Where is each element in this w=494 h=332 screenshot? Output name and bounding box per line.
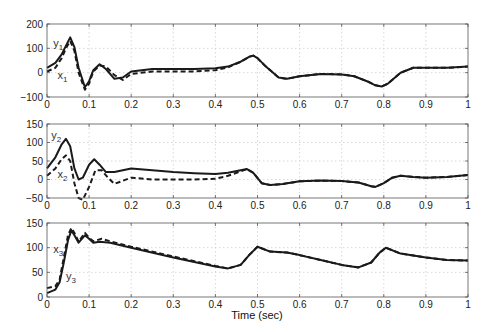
x-tick-label: 0.8 — [377, 299, 391, 310]
y-tick-label: 100 — [26, 137, 43, 148]
x-tick-label: 0.1 — [82, 200, 96, 211]
x-tick-label: 0.8 — [377, 200, 391, 211]
x-tick-label: 0.5 — [251, 200, 265, 211]
x-tick-label: 0 — [44, 299, 50, 310]
y-tick-label: 150 — [26, 119, 43, 130]
x-tick-label: 0.3 — [166, 99, 180, 110]
x-tick-label: 0.1 — [82, 299, 96, 310]
x-tick-label: 0.5 — [251, 99, 265, 110]
x-tick-label: 0 — [44, 99, 50, 110]
label-y1: y1 — [53, 37, 64, 52]
x-tick-label: 0.3 — [166, 299, 180, 310]
label-x1: x1 — [58, 69, 69, 84]
y-tick-label: 150 — [26, 218, 43, 229]
x-tick-label: 1 — [465, 99, 471, 110]
y-tick-label: 100 — [26, 43, 43, 54]
label-x3: x3 — [53, 243, 64, 258]
figure: 00.10.20.30.40.50.60.70.80.91−1000100200… — [0, 0, 494, 332]
x-tick-label: 0.7 — [335, 200, 349, 211]
label-y2: y2 — [51, 129, 62, 144]
x-tick-label: 0.4 — [208, 200, 222, 211]
x-tick-label: 0.2 — [124, 200, 138, 211]
y-tick-label: 50 — [32, 267, 44, 278]
plot-middle-y2-x2: 00.10.20.30.40.50.60.70.80.91−5005010015… — [26, 119, 471, 212]
x-tick-label: 0.6 — [293, 99, 307, 110]
x-tick-label: 0 — [44, 200, 50, 211]
label-y3: y3 — [66, 270, 77, 285]
plot-top-y1-x1: 00.10.20.30.40.50.60.70.80.91−1000100200… — [20, 19, 471, 111]
plot-bottom-y3-x3: 00.10.20.30.40.50.60.70.80.91050100150x3… — [26, 218, 471, 311]
x-tick-label: 0.7 — [335, 99, 349, 110]
y-tick-label: 50 — [32, 156, 44, 167]
y-tick-label: 200 — [26, 19, 43, 30]
x-tick-label: 1 — [465, 200, 471, 211]
x-tick-label: 0.2 — [124, 99, 138, 110]
y-tick-label: 0 — [37, 292, 43, 303]
x-tick-label: 0.2 — [124, 299, 138, 310]
x-tick-label: 1 — [465, 299, 471, 310]
x-tick-label: 0.9 — [419, 99, 433, 110]
x-tick-label: 0.6 — [293, 299, 307, 310]
x-tick-label: 0.4 — [208, 299, 222, 310]
x-tick-label: 0.6 — [293, 200, 307, 211]
x-tick-label: 0.9 — [419, 299, 433, 310]
x-tick-label: 0.1 — [82, 99, 96, 110]
x-tick-label: 0.4 — [208, 99, 222, 110]
y-tick-label: 100 — [26, 242, 43, 253]
label-x2: x2 — [58, 168, 69, 183]
x-tick-label: 0.3 — [166, 200, 180, 211]
x-tick-label: 0.8 — [377, 99, 391, 110]
y-tick-label: 0 — [37, 174, 43, 185]
y-tick-label: −100 — [20, 92, 43, 103]
y-tick-label: 0 — [37, 67, 43, 78]
x-axis-label: Time (sec) — [231, 309, 283, 321]
x-tick-label: 0.7 — [335, 299, 349, 310]
y-tick-label: −50 — [26, 193, 43, 204]
x-tick-label: 0.9 — [419, 200, 433, 211]
